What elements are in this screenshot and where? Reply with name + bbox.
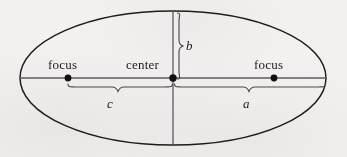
brace-b-path <box>178 13 184 79</box>
focus-right-point <box>271 75 278 82</box>
focus-left-point <box>65 75 72 82</box>
center-point <box>169 74 176 81</box>
focus-right-label: focus <box>254 58 283 71</box>
brace-a-path <box>175 84 326 92</box>
center-to-focus-label: c <box>107 97 113 110</box>
focus-left-label: focus <box>48 58 77 71</box>
center-label: center <box>126 58 159 71</box>
semi-minor-axis-label: b <box>186 39 193 52</box>
brace-c-path <box>68 84 173 92</box>
ellipse-diagram-svg <box>0 0 347 157</box>
ellipse-geometry-figure: focus center focus b c a <box>0 0 347 157</box>
semi-major-axis-label: a <box>243 97 250 110</box>
